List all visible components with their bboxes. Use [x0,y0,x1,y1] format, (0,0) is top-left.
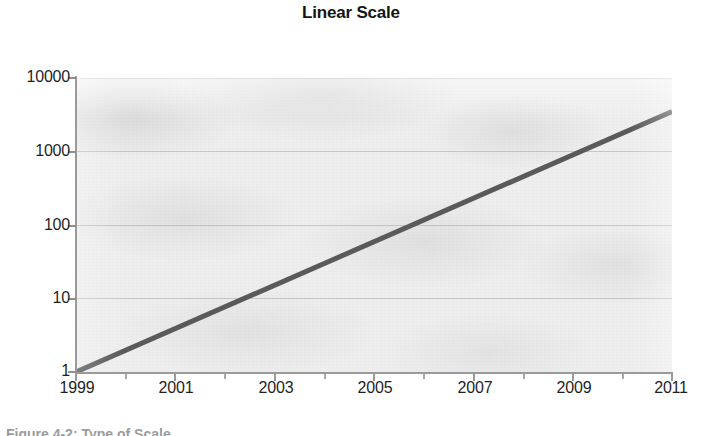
y-tick-label-10: 10 [53,289,70,307]
x-tick-2004 [324,374,326,379]
x-tick-label-2011: 2011 [654,379,688,397]
x-tick-label-2009: 2009 [557,379,592,397]
x-tick-2008 [523,374,525,379]
x-tick-2002 [224,374,226,379]
y-tick-label-1: 1 [61,362,70,380]
figure-container: Linear Scale 10000 1000 100 10 1 1999 20… [0,0,702,436]
x-tick-label-2007: 2007 [458,379,493,397]
y-tick-label-10000: 10000 [27,68,71,86]
x-tick-2000 [125,374,127,379]
x-tick-label-2003: 2003 [259,379,294,397]
chart-title: Linear Scale [0,3,702,23]
x-tick-2010 [622,374,624,379]
plot-area [76,78,672,372]
figure-caption: Figure 4-2: Type of Scale [6,426,426,436]
x-tick-label-2005: 2005 [358,379,393,397]
y-tick-label-100: 100 [44,216,70,234]
x-tick-label-1999: 1999 [60,379,95,397]
y-tick-label-1000: 1000 [35,142,70,160]
x-tick-2006 [423,374,425,379]
series-line-growth [76,78,672,372]
x-tick-label-2001: 2001 [159,379,194,397]
